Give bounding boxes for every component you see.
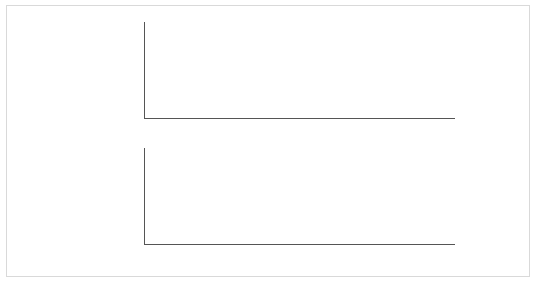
plot-area-bottom bbox=[144, 148, 455, 245]
execution-time-subplot bbox=[7, 6, 537, 136]
plot-area-top bbox=[144, 22, 455, 119]
smoothness-subplot bbox=[7, 134, 537, 283]
figure-frame bbox=[6, 5, 530, 277]
